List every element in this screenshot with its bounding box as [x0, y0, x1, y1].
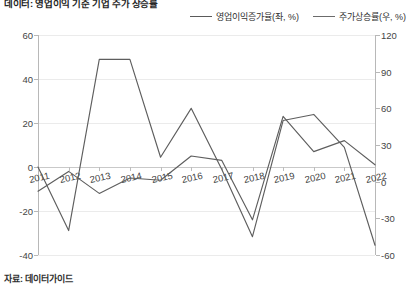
gridline	[38, 255, 375, 256]
y-axis-right-tick-mark	[376, 218, 380, 219]
chart-title: 데이터: 영업이익 기준 기업 주가 상승률	[4, 0, 334, 10]
y-axis-right-tick-label: 120	[381, 30, 413, 41]
y-axis-right-tick-mark	[376, 145, 380, 146]
y-axis-right-tick-label: 90	[381, 66, 413, 77]
y-axis-left-tick-label: 40	[0, 74, 33, 85]
legend-item-stock-return: 주가상승률(우, %)	[313, 10, 406, 23]
chart-series-layer	[38, 35, 375, 255]
y-axis-right-tick-mark	[376, 255, 380, 256]
y-axis-right-tick-label: 30	[381, 140, 413, 151]
y-axis-right-tick-mark	[376, 35, 380, 36]
series-line-operating-profit	[38, 116, 375, 219]
legend-label-operating-profit: 영업이익증가율(좌, %)	[216, 10, 299, 23]
chart-source: 자료: 데이터가이드	[4, 272, 74, 285]
y-axis-left-tick-label: 0	[0, 162, 33, 173]
x-axis-tick-mark	[375, 167, 376, 171]
y-axis-left-tick-label: -20	[0, 206, 33, 217]
y-axis-right-tick-mark	[376, 72, 380, 73]
legend-item-operating-profit: 영업이익증가율(좌, %)	[190, 10, 299, 23]
series-line-stock-return	[38, 59, 375, 245]
legend-line-swatch-icon	[313, 16, 335, 17]
y-axis-right-tick-label: -30	[381, 213, 413, 224]
chart-figure: 데이터: 영업이익 기준 기업 주가 상승률 영업이익증가율(좌, %) 주가상…	[0, 0, 413, 295]
y-axis-right-tick-label: 60	[381, 103, 413, 114]
legend-label-stock-return: 주가상승률(우, %)	[339, 10, 406, 23]
legend-line-swatch-icon	[190, 16, 212, 17]
y-axis-right-tick-mark	[376, 108, 380, 109]
y-axis-left-tick-label: -40	[0, 250, 33, 261]
y-axis-left-tick-mark	[34, 255, 38, 256]
chart-legend: 영업이익증가율(좌, %) 주가상승률(우, %)	[190, 10, 406, 23]
y-axis-left-tick-label: 60	[0, 30, 33, 41]
y-axis-left-tick-label: 20	[0, 118, 33, 129]
y-axis-right-tick-label: -60	[381, 250, 413, 261]
